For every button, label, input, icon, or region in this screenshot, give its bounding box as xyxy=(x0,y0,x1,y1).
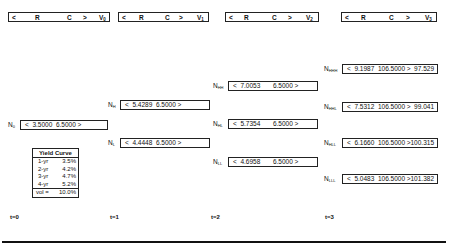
header-box-v0: < R C > V0 xyxy=(8,12,110,22)
time-label-t3: t=3 xyxy=(325,214,334,220)
time-label-t1: t=1 xyxy=(110,214,119,220)
volatility-row: vol =10.0% xyxy=(33,188,78,197)
header-box-v3: < R C > V3 xyxy=(341,12,437,22)
yield-row: 3-yr4.7% xyxy=(33,173,78,181)
node-text: < 7.0053 6.5000 > xyxy=(233,82,298,89)
header-c: C xyxy=(67,14,72,21)
yield-row: 4-yr5.2% xyxy=(33,181,78,189)
node-text: < 7.5312 106.5000 > xyxy=(347,103,411,110)
node-text: < 4.6958 6.5000 > xyxy=(233,158,298,165)
header-c: C xyxy=(272,14,277,21)
node-label-n0: N0 xyxy=(8,121,15,131)
header-c: C xyxy=(389,14,394,21)
node-nHH: < 7.0053 6.5000 > xyxy=(228,81,318,91)
node-nLL: < 4.6958 6.5000 > xyxy=(228,157,318,167)
node-label-nHHH: NHHH xyxy=(324,65,337,75)
node-text: < 3.5000 6.5000 > xyxy=(25,121,81,128)
yield-row: 1-yr3.5% xyxy=(33,158,78,166)
header-gt: > xyxy=(83,14,87,21)
yield-row: 2-yr4.2% xyxy=(33,166,78,174)
node-nHL: < 5.7354 6.5000 > xyxy=(228,119,318,129)
node-value: 99.041 xyxy=(414,103,434,111)
node-text: < 5.4289 6.5000 > xyxy=(125,101,181,108)
node-label-nHLL: NHLL xyxy=(324,139,336,149)
node-n0: < 3.5000 6.5000 > xyxy=(20,120,108,130)
header-lt: < xyxy=(12,14,16,21)
header-v: V1 xyxy=(197,14,204,22)
header-gt: > xyxy=(406,14,410,21)
yield-curve-title: Yield Curve xyxy=(33,149,78,158)
time-label-t2: t=2 xyxy=(211,214,220,220)
node-nL: < 4.4448 6.5000 > xyxy=(120,138,210,148)
header-r: R xyxy=(244,14,249,21)
header-v: V3 xyxy=(425,14,432,22)
node-text: < 4.4448 6.5000 > xyxy=(125,139,181,146)
node-label-nHL: NHL xyxy=(213,120,223,130)
node-value: 97.529 xyxy=(414,65,434,73)
header-box-v2: < R C > V2 xyxy=(225,12,319,22)
time-label-t0: t=0 xyxy=(10,214,19,220)
header-lt: < xyxy=(345,14,349,21)
node-nH: < 5.4289 6.5000 > xyxy=(120,100,210,110)
node-text: < 5.0483 106.5000 > xyxy=(347,175,411,182)
header-v: V2 xyxy=(306,14,313,22)
node-label-nHHL: NHHL xyxy=(324,103,337,113)
node-nHHH: < 9.1987 106.5000 >97.529 xyxy=(342,64,438,74)
node-value: 101.382 xyxy=(411,175,435,183)
header-r: R xyxy=(361,14,366,21)
header-lt: < xyxy=(229,14,233,21)
node-label-nL: NL xyxy=(108,139,115,149)
header-box-v1: < R C > V1 xyxy=(118,12,209,22)
header-v: V0 xyxy=(99,14,106,22)
node-text: < 6.1660 106.5000 > xyxy=(347,139,411,146)
header-c: C xyxy=(165,14,170,21)
node-label-nH: NH xyxy=(108,101,116,111)
node-text: < 5.7354 6.5000 > xyxy=(233,120,298,127)
node-nHHL: < 7.5312 106.5000 >99.041 xyxy=(342,102,438,112)
node-value: 100.315 xyxy=(411,139,435,147)
yield-curve-table: Yield Curve 1-yr3.5% 2-yr4.2% 3-yr4.7% 4… xyxy=(32,148,79,198)
node-label-nHH: NHH xyxy=(213,82,223,92)
node-nHLL: < 6.1660 106.5000 >100.315 xyxy=(342,138,438,148)
header-r: R xyxy=(35,14,40,21)
header-r: R xyxy=(139,14,144,21)
header-gt: > xyxy=(288,14,292,21)
header-lt: < xyxy=(122,14,126,21)
node-label-nLLL: NLLL xyxy=(324,175,335,185)
node-nLLL: < 5.0483 106.5000 >101.382 xyxy=(342,174,438,184)
bottom-rule xyxy=(2,241,446,243)
header-gt: > xyxy=(179,14,183,21)
node-text: < 9.1987 106.5000 > xyxy=(347,65,411,72)
node-label-nLL: NLL xyxy=(213,158,222,168)
